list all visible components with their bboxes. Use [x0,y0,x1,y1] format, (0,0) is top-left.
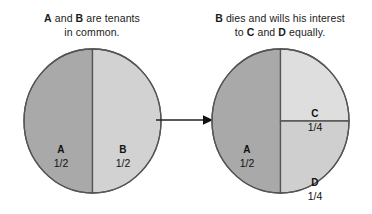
slice-label-before-a-share: 1/2 [39,157,83,170]
slice-label-before-a: A 1/2 [39,144,83,169]
pie-chart-after: A 1/2 C 1/4 D 1/4 [209,46,352,196]
slice-label-after-d: D 1/4 [293,177,337,202]
panel-after: AB dies and wills his interestto C and D… [196,0,364,214]
caption-after-d-bold: D [278,26,286,38]
slice-label-after-a-share: 1/2 [225,157,269,170]
caption-after-b-bold: B [215,12,223,24]
pie-before-svg [21,46,164,196]
slice-label-after-d-share: 1/4 [293,190,337,203]
slice-label-before-a-name: A [39,144,83,157]
caption-before: A and B are tenantsin common. [8,12,176,39]
slice-label-after-c-share: 1/4 [293,121,337,134]
panel-before: A and B are tenantsin common. A 1/2 B 1/… [8,0,176,214]
caption-before-text-2: are tenants [83,12,140,24]
caption-after-c-bold: C [247,26,255,38]
slice-label-before-b-share: 1/2 [101,157,145,170]
caption-before-party-a: A [44,12,52,24]
caption-before-text-1: and [52,12,76,24]
slice-before-b [93,49,162,193]
caption-after-line2: to C and D equally. [235,26,325,38]
caption-after-line1: B dies and wills his interest [215,12,345,24]
pie-chart-before: A 1/2 B 1/2 [21,46,164,196]
slice-label-before-b: B 1/2 [101,144,145,169]
slice-label-after-c-name: C [293,108,337,121]
tenancy-diagram: A and B are tenantsin common. A 1/2 B 1/… [0,0,372,214]
slice-label-before-b-name: B [101,144,145,157]
slice-label-after-c: C 1/4 [293,108,337,133]
caption-before-text-3: in common. [64,26,119,38]
slice-label-after-a: A 1/2 [225,144,269,169]
slice-label-after-d-name: D [293,177,337,190]
slice-label-after-a-name: A [225,144,269,157]
slice-after-a [212,49,281,193]
slice-before-a [24,49,93,193]
caption-after: AB dies and wills his interestto C and D… [196,12,364,39]
